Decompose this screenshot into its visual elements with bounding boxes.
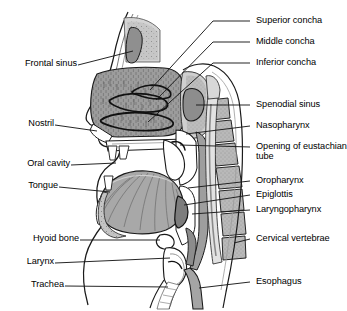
label-inferior-concha: Inferior concha <box>256 57 316 67</box>
hyoid-bone <box>156 234 174 249</box>
upper-teeth <box>108 146 117 160</box>
label-superior-concha: Superior concha <box>256 15 322 25</box>
clivus-odontoid <box>206 76 220 99</box>
leader-oral-cavity <box>71 163 116 165</box>
label-larynx: Larynx <box>27 256 54 266</box>
leader-tongue <box>59 187 110 192</box>
label-epiglottis: Epiglottis <box>256 189 293 199</box>
label-hyoid-bone: Hyoid bone <box>33 233 79 243</box>
label-nostril: Nostril <box>28 118 54 128</box>
label-eustachian-tube: Opening of eustachian tube <box>256 141 347 162</box>
skull-base <box>183 64 214 70</box>
label-tongue: Tongue <box>28 180 58 190</box>
leader-esophagus <box>199 282 250 288</box>
lower-teeth <box>104 176 113 190</box>
larynx-cartilage <box>163 248 186 287</box>
vertebra-c6 <box>221 212 246 236</box>
label-esophagus: Esophagus <box>256 276 302 286</box>
label-cervical-vertebrae: Cervical vertebrae <box>256 233 347 243</box>
head-profile-group <box>84 12 246 309</box>
esophagus <box>184 268 203 309</box>
leader-larynx <box>55 258 170 263</box>
label-laryngopharynx: Laryngopharynx <box>256 204 321 214</box>
label-oropharynx: Oropharynx <box>256 175 304 185</box>
leader-trachea <box>65 286 168 287</box>
upper-teeth-2 <box>119 146 129 159</box>
label-frontal-sinus: Frontal sinus <box>25 58 77 68</box>
label-nasopharynx: Nasopharynx <box>256 120 310 130</box>
leader-frontal-sinus <box>78 51 133 65</box>
label-middle-concha: Middle concha <box>256 36 315 46</box>
label-oral-cavity: Oral cavity <box>27 158 70 168</box>
label-trachea: Trachea <box>31 279 64 289</box>
label-spenodial-sinus: Spenodial sinus <box>256 99 320 109</box>
vertebra-c4 <box>216 166 242 189</box>
anatomical-diagram-figure: Frontal sinus Nostril Oral cavity Tongue… <box>0 0 347 311</box>
